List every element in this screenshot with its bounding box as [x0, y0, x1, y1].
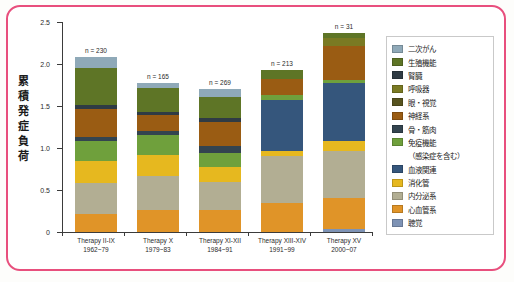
legend-item-sublabel-row: （感染症を含む）	[392, 149, 489, 162]
stacked-bar[interactable]: n = 230	[75, 57, 117, 232]
plot-area: 00.51.01.52.02.5 n = 230n = 165n = 269n …	[62, 22, 372, 232]
x-axis-tick	[186, 232, 187, 236]
x-axis-category-label: Therapy II-IX1962~79	[77, 236, 115, 254]
legend-item-label: 呼吸器	[408, 83, 429, 94]
y-axis-tick-label: 0.5	[40, 187, 50, 194]
chart-legend: 二次がん生殖機能腎臓呼吸器眼・視覚神経系骨・筋肉免疫機能（感染症を含む）血液関連…	[386, 36, 494, 235]
bar-segment[interactable]	[75, 141, 117, 160]
stacked-bar[interactable]: n = 165	[137, 83, 179, 232]
legend-item-label: 骨・筋肉	[408, 124, 436, 135]
legend-item[interactable]: 聴覚	[392, 216, 489, 229]
bar-segment[interactable]	[261, 156, 303, 203]
bar-segment[interactable]	[199, 167, 241, 183]
x-axis-category-name: Therapy XIII-XIV	[258, 236, 306, 245]
x-axis-category-period: 1984~91	[199, 245, 241, 254]
bar-segment[interactable]	[137, 115, 179, 131]
legend-item[interactable]: 生殖機能	[392, 55, 489, 68]
legend-item-label: 聴覚	[408, 217, 422, 228]
bar-sample-size-label: n = 213	[271, 60, 293, 67]
legend-color-swatch	[392, 205, 403, 213]
x-axis-category-label: Therapy X1979~83	[143, 236, 173, 254]
bar-segment[interactable]	[199, 182, 241, 210]
legend-item[interactable]: 腎臓	[392, 69, 489, 82]
bar-sample-size-label: n = 31	[335, 23, 353, 30]
bar-segment[interactable]	[261, 203, 303, 232]
legend-item[interactable]: 消化管	[392, 176, 489, 189]
legend-item[interactable]: 骨・筋肉	[392, 122, 489, 135]
legend-color-swatch	[392, 165, 403, 173]
legend-item[interactable]: 心血管系	[392, 203, 489, 216]
bar-segment[interactable]	[261, 100, 303, 151]
legend-color-swatch	[392, 71, 403, 79]
bar-segment[interactable]	[137, 88, 179, 112]
bar-segment[interactable]	[323, 151, 365, 198]
legend-color-swatch	[392, 192, 403, 200]
legend-item-label: 心血管系	[408, 204, 436, 215]
legend-color-swatch	[392, 85, 403, 93]
legend-item[interactable]: 眼・視覚	[392, 96, 489, 109]
y-axis-tick-label: 1.5	[40, 103, 50, 110]
legend-item-label: 神経系	[408, 110, 429, 121]
x-axis-category-period: 2000~07	[327, 245, 361, 254]
x-axis-tick	[124, 232, 125, 236]
bar-segment[interactable]	[199, 89, 241, 97]
bar-segment[interactable]	[137, 135, 179, 155]
legend-color-swatch	[392, 112, 403, 120]
bar-segment[interactable]	[199, 146, 241, 153]
chart-figure: 累積発症負荷 00.51.01.52.02.5 n = 230n = 165n …	[0, 0, 514, 282]
legend-item[interactable]: 二次がん	[392, 42, 489, 55]
legend-color-swatch	[392, 179, 403, 187]
stacked-bar[interactable]: n = 269	[199, 89, 241, 232]
bar-segment[interactable]	[137, 210, 179, 232]
bar-segment[interactable]	[199, 210, 241, 232]
legend-item-label: 腎臓	[408, 70, 422, 81]
bar-segment[interactable]	[75, 183, 117, 214]
bar-segment[interactable]	[323, 198, 365, 228]
bar-segment[interactable]	[137, 155, 179, 176]
x-axis-line	[62, 232, 372, 233]
bar-sample-size-label: n = 230	[85, 47, 107, 54]
x-axis-category-name: Therapy XV	[327, 236, 361, 245]
legend-color-swatch	[392, 58, 403, 66]
bar-segment[interactable]	[323, 229, 365, 232]
stacked-bar[interactable]: n = 31	[323, 33, 365, 232]
y-axis-tick-label: 2.0	[40, 61, 50, 68]
legend-item[interactable]: 免疫機能	[392, 136, 489, 149]
bar-segment[interactable]	[261, 70, 303, 79]
stacked-bar[interactable]: n = 213	[261, 70, 303, 232]
legend-item[interactable]: 呼吸器	[392, 82, 489, 95]
legend-item-label: 消化管	[408, 177, 429, 188]
legend-item[interactable]: 内分泌系	[392, 189, 489, 202]
bar-segment[interactable]	[75, 109, 117, 137]
bar-segment[interactable]	[261, 79, 303, 95]
bar-segment[interactable]	[75, 214, 117, 232]
bar-segment[interactable]	[199, 153, 241, 166]
legend-item-label: 二次がん	[408, 43, 436, 54]
x-axis-category-period: 1991~99	[258, 245, 306, 254]
legend-item-label: 内分泌系	[408, 190, 436, 201]
legend-item[interactable]: 神経系	[392, 109, 489, 122]
y-axis-tick-label: 0	[46, 229, 50, 236]
legend-color-swatch	[392, 45, 403, 53]
y-axis-title: 累積発症負荷	[16, 74, 31, 164]
y-axis-tick: 1.0	[57, 148, 62, 149]
bar-segment[interactable]	[75, 161, 117, 184]
bar-segment[interactable]	[323, 141, 365, 151]
bar-segment[interactable]	[199, 97, 241, 118]
legend-item-sublabel: （感染症を含む）	[392, 150, 464, 161]
bar-segment[interactable]	[323, 83, 365, 142]
bar-segment[interactable]	[75, 57, 117, 68]
legend-color-swatch	[392, 98, 403, 106]
bar-segment[interactable]	[323, 38, 365, 46]
bar-segment[interactable]	[137, 176, 179, 210]
bar-segment[interactable]	[199, 122, 241, 146]
x-axis-category-name: Therapy XI-XII	[199, 236, 241, 245]
y-axis-tick: 2.0	[57, 64, 62, 65]
legend-color-swatch	[392, 219, 403, 227]
legend-item[interactable]: 血液関連	[392, 163, 489, 176]
legend-color-swatch	[392, 138, 403, 146]
x-axis-tick	[372, 232, 373, 236]
bar-segment[interactable]	[75, 68, 117, 105]
y-axis-tick: 2.5	[57, 22, 62, 23]
bar-segment[interactable]	[323, 46, 365, 80]
